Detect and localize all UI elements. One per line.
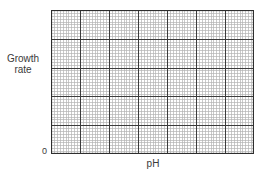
- y-axis-label: Growth rate: [2, 53, 44, 75]
- y-axis-label-line2: rate: [2, 64, 44, 75]
- origin-label: 0: [42, 146, 47, 156]
- graph-grid: [51, 10, 254, 154]
- x-axis-label: pH: [140, 158, 166, 169]
- plot-area: [51, 10, 254, 154]
- y-axis-label-line1: Growth: [2, 53, 44, 64]
